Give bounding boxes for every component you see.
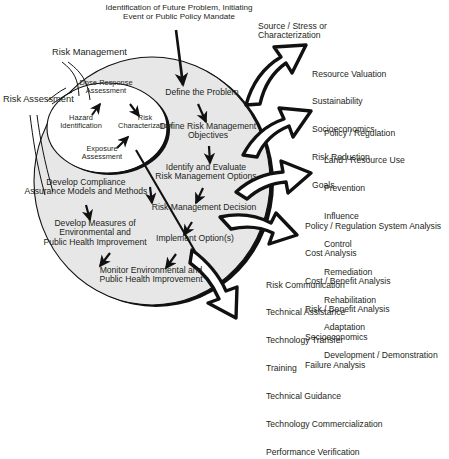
list-item: Policy / Regulation System Analysis [305,222,449,231]
list-item: Technical Assistance [266,308,416,317]
list-item: Prevention [324,184,449,193]
list-item: Policy / Regulation [324,129,449,138]
list-item: Technical Guidance [266,392,416,401]
callout-communication-group: Risk Communication Technical Assistance … [266,262,416,459]
outer-step-define-risk-management-objectives: Define Risk Management Objectives [148,122,268,141]
outer-step-implement-options: Implement Option(s) [140,234,250,243]
list-item: Sustainability [312,97,447,106]
inner-ring-label: Risk Assessment [3,94,74,104]
outer-step-monitor-environmental-and-public-health-improvement: Monitor Environmental and Public Health … [98,266,204,285]
inner-step-dose-response-assessment: Dose-Response Assessment [62,79,150,95]
callout-source-stress-or-characterization-heading: Source / Stress or Characterization [258,22,368,41]
outer-step-identify-and-evaluate-risk-management-options: Identify and Evaluate Risk Management Op… [142,163,270,182]
list-item: Training [266,364,416,373]
list-item: Cost Analysis [305,249,449,258]
outer-step-risk-management-decision: Risk Management Decision [138,203,270,212]
top-entry-label: Identification of Future Problem, Initia… [84,4,274,21]
inner-step-exposure-assessment: Exposure Assessment [62,145,142,161]
list-item: Risk Communication [266,281,416,290]
list-item: Technology Commercialization [266,420,416,429]
list-item: Technology Transfer [266,336,416,345]
outer-step-develop-compliance-assurance-models-and-methods: Develop Compliance Assurance Models and … [24,178,148,197]
outer-ring-label: Risk Management [52,47,127,57]
outer-step-define-the-problem: Define the Problem [148,88,256,97]
list-item: Land / Resource Use [324,156,449,165]
outer-step-develop-measures-of-environmental-and-public-health-improvement: Develop Measures of Environmental and Pu… [40,219,150,247]
list-item: Performance Verification [266,448,416,457]
list-item: Resource Valuation [312,70,447,79]
